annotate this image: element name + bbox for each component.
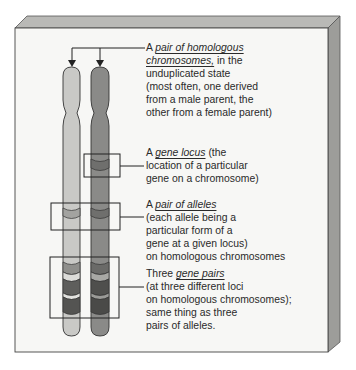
panel-right-side [328, 16, 340, 352]
term-chromosomes: chromosomes, [146, 55, 214, 66]
term-gene-pairs: gene pairs [176, 268, 225, 279]
annotation-homologous-pair: A pair of homologous chromosomes, in the… [146, 41, 272, 119]
light-chromosome [63, 67, 80, 336]
dark-chromosome [91, 67, 109, 336]
term-pair-of-alleles: pair of alleles [155, 199, 216, 210]
diagram-stage: A pair of homologous chromosomes, in the… [0, 0, 356, 370]
panel-top-bevel [15, 16, 340, 28]
annotation-gene-locus: A gene locus (the location of a particul… [146, 146, 259, 185]
term-pair-of-homologous: pair of homologous [155, 42, 243, 53]
annotation-pair-of-alleles: A pair of alleles (each allele being a p… [146, 198, 285, 263]
annotation-three-gene-pairs: Three gene pairs (at three different loc… [146, 267, 292, 332]
term-gene-locus: gene locus [155, 147, 205, 158]
